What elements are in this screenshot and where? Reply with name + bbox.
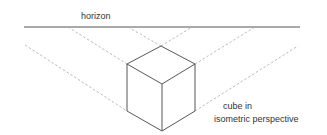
caption-line-1: cube in xyxy=(223,101,252,111)
cube-outline xyxy=(127,46,195,131)
horizon-label: horizon xyxy=(81,11,111,21)
guide-line-center-left xyxy=(128,27,161,46)
isometric-cube xyxy=(127,46,195,131)
guide-line-right-top xyxy=(195,27,255,64)
perspective-diagram: horizon cube in isometric perspective xyxy=(0,0,327,135)
caption-line-2: isometric perspective xyxy=(214,114,299,124)
guide-line-center-right xyxy=(161,27,192,46)
guide-line-left-bottom xyxy=(25,45,127,111)
cube-top-edges xyxy=(127,64,195,84)
guide-lines xyxy=(25,27,298,111)
guide-line-left-top xyxy=(68,27,127,64)
